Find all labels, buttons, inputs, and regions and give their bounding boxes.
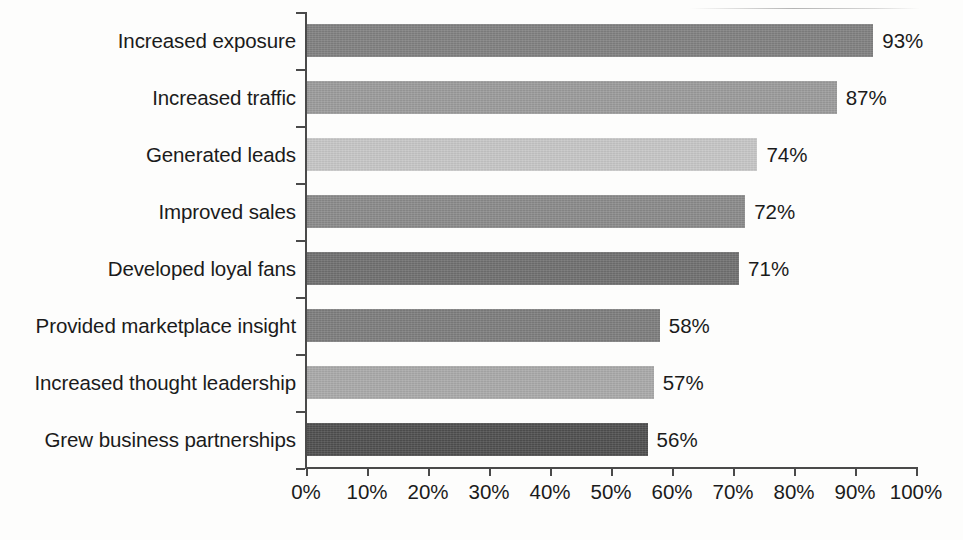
y-axis-tick [296, 411, 305, 413]
bar-fill [306, 252, 739, 285]
x-axis-tick [733, 467, 735, 476]
x-axis-tick-label: 60% [651, 480, 692, 504]
bar-row: Generated leads74% [0, 126, 963, 183]
bar [306, 24, 873, 57]
bar [306, 366, 654, 399]
bar-row: Increased traffic87% [0, 69, 963, 126]
category-label: Developed loyal fans [108, 240, 296, 297]
bar-row: Increased exposure93% [0, 12, 963, 69]
y-axis-tick [296, 468, 305, 470]
value-label: 87% [837, 81, 887, 114]
category-label: Increased traffic [152, 69, 296, 126]
value-label: 93% [873, 24, 923, 57]
x-axis-tick-label: 40% [529, 480, 570, 504]
bar [306, 252, 739, 285]
y-axis-tick [296, 183, 305, 185]
x-axis-tick [916, 467, 918, 476]
y-axis-tick [296, 297, 305, 299]
bar [306, 81, 837, 114]
category-label: Provided marketplace insight [36, 297, 296, 354]
bar-fill [306, 138, 757, 171]
x-axis-tick-label: 20% [407, 480, 448, 504]
x-axis-tick-label: 100% [890, 480, 942, 504]
bar [306, 423, 648, 456]
x-axis-tick-label: 90% [834, 480, 875, 504]
y-axis-tick [296, 12, 305, 14]
x-axis-tick-label: 0% [291, 480, 321, 504]
value-label: 74% [757, 138, 807, 171]
bar-row: Provided marketplace insight58% [0, 297, 963, 354]
bar-fill [306, 195, 745, 228]
bar [306, 138, 757, 171]
bar-fill [306, 423, 648, 456]
x-axis-tick [855, 467, 857, 476]
y-axis-tick [296, 240, 305, 242]
x-axis-tick [306, 467, 308, 476]
value-label: 72% [745, 195, 795, 228]
x-axis-tick [428, 467, 430, 476]
plot-area: Increased exposure93%Increased traffic87… [0, 0, 963, 540]
bar-row: Improved sales72% [0, 183, 963, 240]
x-axis-line: 0%10%20%30%40%50%60%70%80%90%100% [305, 467, 916, 469]
category-label: Generated leads [146, 126, 296, 183]
category-label: Increased thought leadership [34, 354, 296, 411]
bar [306, 309, 660, 342]
bar-fill [306, 366, 654, 399]
value-label: 57% [654, 366, 704, 399]
y-axis-tick [296, 69, 305, 71]
x-axis-tick-label: 50% [590, 480, 631, 504]
x-axis-tick [489, 467, 491, 476]
bar-row: Increased thought leadership57% [0, 354, 963, 411]
bar-fill [306, 309, 660, 342]
value-label: 71% [739, 252, 789, 285]
bar-row: Developed loyal fans71% [0, 240, 963, 297]
category-label: Increased exposure [118, 12, 296, 69]
value-label: 56% [648, 423, 698, 456]
bar-fill [306, 81, 837, 114]
x-axis-tick-label: 10% [346, 480, 387, 504]
x-axis-tick [672, 467, 674, 476]
category-label: Improved sales [158, 183, 296, 240]
bar-rows: Increased exposure93%Increased traffic87… [0, 12, 963, 468]
x-axis-tick [367, 467, 369, 476]
bar-fill [306, 24, 873, 57]
category-label: Grew business partnerships [45, 411, 297, 468]
bar-chart: Increased exposure93%Increased traffic87… [0, 0, 963, 540]
y-axis-tick [296, 126, 305, 128]
bar-row: Grew business partnerships56% [0, 411, 963, 468]
x-axis-tick-label: 80% [773, 480, 814, 504]
x-axis-tick [794, 467, 796, 476]
x-axis-tick [611, 467, 613, 476]
bar [306, 195, 745, 228]
x-axis-tick [550, 467, 552, 476]
y-axis-line [305, 12, 307, 468]
y-axis-tick [296, 354, 305, 356]
x-axis-tick-label: 70% [712, 480, 753, 504]
value-label: 58% [660, 309, 710, 342]
x-axis-tick-label: 30% [468, 480, 509, 504]
